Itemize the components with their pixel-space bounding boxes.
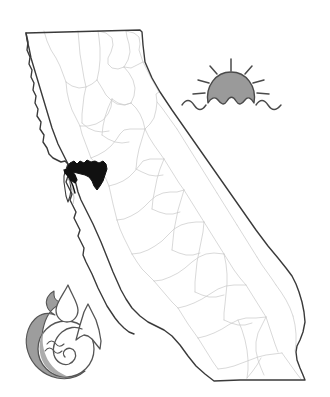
water-environment-logo [26, 285, 101, 379]
water-droplet-icon [56, 285, 78, 322]
figure-canvas [0, 0, 330, 397]
water-environment-logo-layer [0, 0, 330, 397]
